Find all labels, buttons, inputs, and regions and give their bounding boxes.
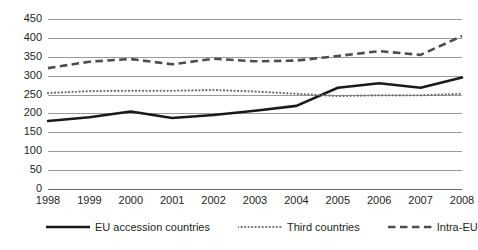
x-axis-tick-label: 1998 xyxy=(36,194,60,207)
x-axis-tick-label: 2006 xyxy=(367,194,391,207)
series-line xyxy=(48,90,462,96)
legend-item-label: Intra-EU xyxy=(437,221,478,234)
chart-legend: EU accession countriesThird countriesInt… xyxy=(46,216,446,238)
y-axis-tick-label: 300 xyxy=(2,70,42,81)
x-axis-tick-label: 2008 xyxy=(450,194,474,207)
series-line xyxy=(48,78,462,121)
y-axis-tick-label: 100 xyxy=(2,145,42,156)
x-axis-tick-label: 2007 xyxy=(408,194,432,207)
x-axis-tick-label: 2000 xyxy=(119,194,143,207)
y-axis-tick-label: 0 xyxy=(2,183,42,194)
legend-item[interactable]: EU accession countries xyxy=(46,221,210,234)
y-axis-tick-label: 250 xyxy=(2,89,42,100)
y-axis-tick-label: 50 xyxy=(2,164,42,175)
legend-item-label: Third countries xyxy=(287,221,360,234)
x-axis-tick-label: 2004 xyxy=(284,194,308,207)
legend-item[interactable]: Intra-EU xyxy=(388,221,478,234)
y-axis-tick-label: 350 xyxy=(2,51,42,62)
x-axis-tick-label: 1999 xyxy=(77,194,101,207)
y-axis-tick-label: 450 xyxy=(2,13,42,24)
series-line xyxy=(48,36,462,68)
gridline xyxy=(48,189,462,190)
legend-swatch-dotted-icon xyxy=(238,221,282,233)
y-axis: 050100150200250300350400450 xyxy=(0,0,42,250)
legend-item-label: EU accession countries xyxy=(95,221,210,234)
x-axis-tick-label: 2002 xyxy=(201,194,225,207)
legend-item[interactable]: Third countries xyxy=(238,221,360,234)
series-layer xyxy=(48,19,462,189)
legend-swatch-solid-icon xyxy=(46,221,90,233)
legend-swatch-dashed-icon xyxy=(388,221,432,233)
x-axis-tick-label: 2001 xyxy=(160,194,184,207)
y-axis-tick-label: 150 xyxy=(2,126,42,137)
x-axis: 1998199920002001200220032004200520062007… xyxy=(48,194,462,210)
y-axis-tick-label: 200 xyxy=(2,107,42,118)
x-axis-tick-label: 2003 xyxy=(243,194,267,207)
y-axis-tick-label: 400 xyxy=(2,32,42,43)
x-axis-tick-label: 2005 xyxy=(326,194,350,207)
